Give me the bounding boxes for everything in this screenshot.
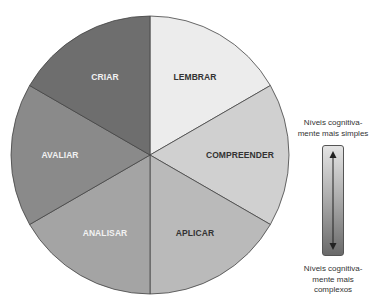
complex-levels-label: Níveis cognitiva- mente mais complexos — [288, 264, 378, 296]
simple-levels-label: Níveis cognitiva- mente mais simples — [288, 118, 378, 139]
complexity-scale-bar — [322, 145, 344, 256]
slice-label-lembrar: LEMBRAR — [173, 72, 216, 82]
complex-levels-label-line3: complexos — [288, 285, 378, 296]
slice-label-avaliar: AVALIAR — [41, 150, 78, 160]
double-arrow-icon — [323, 146, 343, 255]
complex-levels-label-line1: Níveis cognitiva- — [288, 264, 378, 275]
arrow-head-up — [330, 151, 337, 158]
slice-label-compreender: COMPREENDER — [206, 150, 274, 160]
slice-label-aplicar: APLICAR — [176, 228, 214, 238]
complex-levels-label-line2: mente mais — [288, 275, 378, 286]
slice-label-criar: CRIAR — [91, 72, 118, 82]
simple-levels-label-line1: Níveis cognitiva- — [288, 118, 378, 129]
slice-label-analisar: ANALISAR — [83, 228, 128, 238]
simple-levels-label-line2: mente mais simples — [288, 129, 378, 140]
arrow-head-down — [330, 243, 337, 250]
bloom-taxonomy-pie: LEMBRARCOMPREENDERAPLICARANALISARAVALIAR… — [0, 0, 300, 308]
